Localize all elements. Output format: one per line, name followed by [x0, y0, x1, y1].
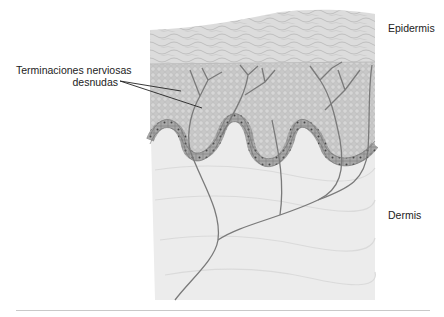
nerve-endings-label-line1: Terminaciones nerviosas [16, 64, 118, 76]
bottom-divider [16, 310, 430, 311]
nerve-endings-label-line2: desnudas [16, 76, 118, 88]
skin-diagram [0, 0, 444, 317]
nerve-endings-label: Terminaciones nerviosas desnudas [16, 64, 118, 88]
epidermis-label: Epidermis [388, 22, 435, 34]
dermis-label: Dermis [388, 209, 421, 221]
stratum-corneum [150, 10, 375, 64]
